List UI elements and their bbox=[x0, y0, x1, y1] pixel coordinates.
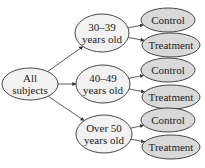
edge-all-to-g1 bbox=[48, 46, 83, 71]
node-treatment-2: Treatment bbox=[142, 85, 200, 109]
node-all-subjects-label: All bbox=[23, 72, 37, 84]
node-age-group-1-label: years old bbox=[82, 33, 123, 45]
node-age-group-1-label: 30–39 bbox=[88, 21, 116, 33]
node-age-group-3-label: Over 50 bbox=[86, 122, 122, 134]
node-age-group-2-label: 40–49 bbox=[89, 72, 117, 84]
node-treatment-3: Treatment bbox=[142, 135, 200, 159]
edge-g3-to-g3t bbox=[131, 139, 145, 142]
edge-g3-to-g3c bbox=[131, 125, 144, 128]
edge-g1-to-g1t bbox=[128, 38, 144, 41]
node-control-3-label: Control bbox=[151, 114, 185, 126]
nodes: Allsubjects30–39years oldControlTreatmen… bbox=[2, 8, 200, 159]
node-age-group-2-label: years old bbox=[83, 84, 124, 96]
node-control-1: Control bbox=[141, 8, 195, 32]
node-age-group-3: Over 50years old bbox=[76, 115, 132, 153]
edge-g2-to-g2t bbox=[129, 89, 145, 92]
edge-all-to-g3 bbox=[48, 96, 84, 120]
node-control-3: Control bbox=[141, 108, 195, 132]
node-all-subjects-label: subjects bbox=[12, 84, 47, 96]
edge-g1-to-g1c bbox=[128, 25, 143, 28]
node-treatment-1-label: Treatment bbox=[149, 39, 194, 51]
node-age-group-3-label: years old bbox=[84, 134, 125, 146]
node-control-2: Control bbox=[141, 58, 195, 82]
node-treatment-1: Treatment bbox=[142, 33, 200, 57]
tree-diagram: Allsubjects30–39years oldControlTreatmen… bbox=[0, 0, 205, 168]
node-age-group-2: 40–49years old bbox=[76, 65, 130, 103]
edge-g2-to-g2c bbox=[129, 75, 144, 78]
node-age-group-1: 30–39years old bbox=[75, 14, 129, 52]
node-treatment-3-label: Treatment bbox=[149, 141, 194, 153]
node-control-1-label: Control bbox=[151, 14, 185, 26]
node-treatment-2-label: Treatment bbox=[149, 91, 194, 103]
node-all-subjects: Allsubjects bbox=[2, 68, 58, 100]
node-control-2-label: Control bbox=[151, 64, 185, 76]
